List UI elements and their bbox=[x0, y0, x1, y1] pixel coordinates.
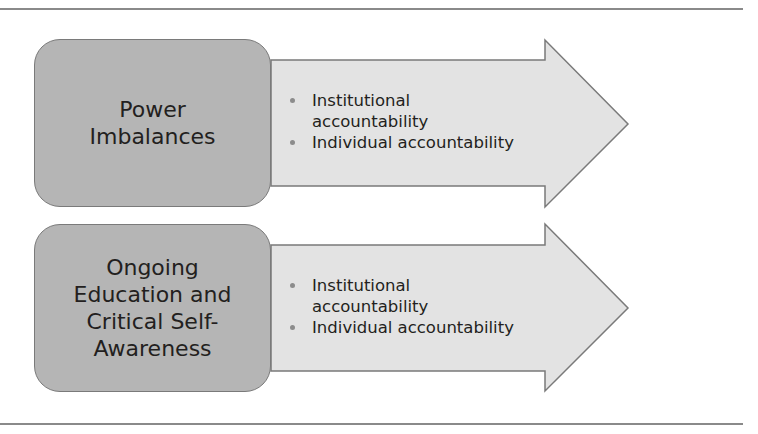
bottom-rule bbox=[0, 423, 743, 425]
box-title-line: Critical Self- bbox=[74, 308, 232, 335]
bullet-item: Institutional accountability bbox=[290, 275, 514, 317]
box-ongoing-education: Ongoing Education and Critical Self- Awa… bbox=[34, 224, 271, 392]
bullet-list-1: Institutional accountability Individual … bbox=[290, 90, 514, 153]
bullet-item: Individual accountability bbox=[290, 132, 514, 153]
bullet-item: Institutional accountability bbox=[290, 90, 514, 132]
box-title-line: Imbalances bbox=[90, 123, 216, 150]
box-title-line: Awareness bbox=[74, 335, 232, 362]
box-title-line: Ongoing bbox=[74, 254, 232, 281]
bullet-list-2: Institutional accountability Individual … bbox=[290, 275, 514, 338]
bullet-item: Individual accountability bbox=[290, 317, 514, 338]
box-title-line: Power bbox=[90, 96, 216, 123]
box-power-imbalances: Power Imbalances bbox=[34, 39, 271, 207]
box-title-line: Education and bbox=[74, 281, 232, 308]
